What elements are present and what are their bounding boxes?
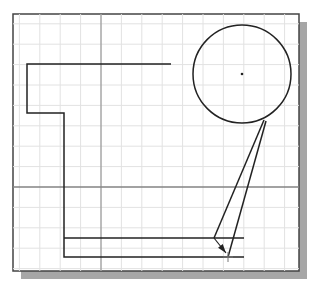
circle-center-point (241, 73, 244, 76)
cad-drawing-canvas[interactable] (0, 0, 315, 285)
drawing-frame (13, 14, 299, 271)
